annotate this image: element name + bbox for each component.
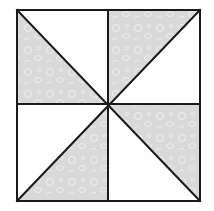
- pinwheel-quilt-block: [0, 0, 214, 211]
